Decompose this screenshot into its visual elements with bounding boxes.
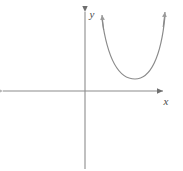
- y-axis-label: y: [89, 8, 95, 20]
- figure-container: y x: [0, 0, 183, 171]
- coordinate-plane-graph: y x: [0, 0, 183, 171]
- x-axis-label: x: [163, 95, 169, 107]
- parabola-curve: [102, 16, 165, 79]
